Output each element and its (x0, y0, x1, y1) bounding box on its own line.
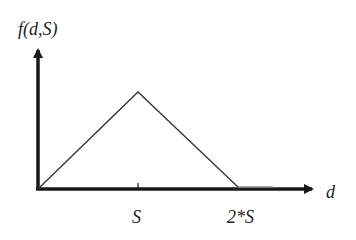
y-axis-label: f(d,S) (18, 19, 58, 40)
tick-label-s: S (132, 207, 141, 227)
tick-label-2s: 2*S (227, 207, 254, 227)
function-curve (38, 92, 238, 189)
triangular-function-diagram: f(d,S) d S 2*S (0, 0, 356, 240)
x-axis-label: d (326, 182, 336, 202)
